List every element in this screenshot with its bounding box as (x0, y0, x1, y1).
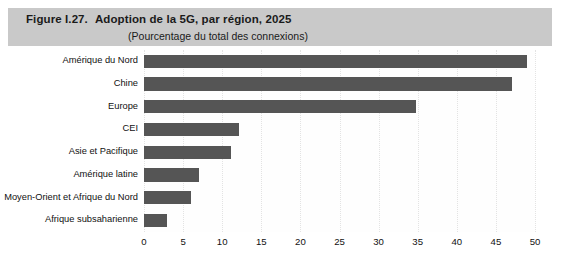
chart-plot-wrapper: Amérique du NordChineEuropeCEIAsie et Pa… (0, 50, 561, 268)
bar-row: Amérique du Nord (144, 50, 535, 73)
x-tick-label: 0 (141, 236, 146, 247)
bar-row: Afrique subsaharienne (144, 209, 535, 232)
category-label: Amérique latine (73, 167, 138, 181)
figure-container: Figure I.27.Adoption de la 5G, par régio… (0, 0, 561, 268)
bar (144, 168, 199, 181)
category-label: Europe (108, 99, 138, 113)
bar (144, 77, 512, 90)
category-label: Moyen-Orient et Afrique du Nord (4, 190, 138, 204)
bar-row: Amérique latine (144, 164, 535, 187)
x-tick-label: 25 (334, 236, 345, 247)
figure-header-band: Figure I.27.Adoption de la 5G, par régio… (8, 8, 552, 46)
x-tick-label: 20 (295, 236, 306, 247)
bar (144, 214, 167, 227)
x-tick-label: 30 (373, 236, 384, 247)
x-tick-label: 35 (412, 236, 423, 247)
category-label: Amérique du Nord (63, 53, 138, 67)
bar-row: Asie et Pacifique (144, 141, 535, 164)
bar (144, 191, 191, 204)
x-tick-label: 15 (256, 236, 267, 247)
plot-area: Amérique du NordChineEuropeCEIAsie et Pa… (144, 50, 535, 232)
figure-title-text: Adoption de la 5G, par région, 2025 (95, 13, 291, 25)
x-tick-label: 50 (530, 236, 541, 247)
x-tick-label: 40 (451, 236, 462, 247)
category-label: Asie et Pacifique (69, 144, 138, 158)
bar (144, 100, 416, 113)
figure-subtitle: (Pourcentage du total des connexions) (8, 30, 428, 42)
x-tick-label: 10 (217, 236, 228, 247)
bar-row: CEI (144, 118, 535, 141)
bar (144, 55, 527, 68)
category-label: Afrique subsaharienne (45, 212, 138, 226)
x-tick-label: 45 (491, 236, 502, 247)
category-label: CEI (123, 121, 139, 135)
bar-row: Moyen-Orient et Afrique du Nord (144, 187, 535, 210)
figure-number: Figure I.27. (26, 13, 88, 25)
category-label: Chine (114, 76, 138, 90)
bar-row: Chine (144, 73, 535, 96)
x-tick-label: 5 (180, 236, 185, 247)
bar (144, 123, 239, 136)
x-axis: 05101520253035404550 (144, 236, 535, 260)
gridline (535, 50, 536, 232)
bar (144, 146, 231, 159)
figure-title: Figure I.27.Adoption de la 5G, par régio… (26, 13, 291, 25)
bar-row: Europe (144, 96, 535, 119)
